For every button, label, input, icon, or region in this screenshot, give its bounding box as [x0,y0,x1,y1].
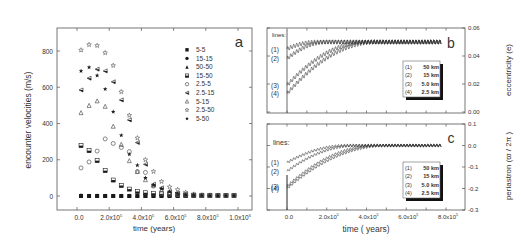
tick-label: 200 [42,156,53,163]
tick-label: 2.0x105 [100,213,122,221]
tick-label: 0.06 [468,25,480,31]
legend-item: (3)5.0 km [405,182,439,188]
legend-item: 50-50 [185,63,213,70]
series-15-50 [79,144,236,198]
figure: 0200400600800 0.02.0x1054.0x1056.0x1058.… [0,0,521,248]
panel-a-scatter-plot: 0200400600800 0.02.0x1054.0x1056.0x1058.… [23,28,252,233]
legend-index: (3) [405,182,412,188]
panel-b-lines-annotation: lines: [272,32,286,38]
legend-label: 50 km [423,64,439,70]
legend-label: 15 km [423,173,439,179]
legend-item: 15-50 [185,72,213,79]
panel-b-label: b [447,35,455,51]
line-label: (2) [271,55,279,63]
tick-label: 0.1 [468,121,477,127]
line-label: (1) [271,159,279,167]
tick-label: 0 [49,193,53,200]
legend-index: (2) [405,72,412,78]
panel-c-label: c [448,130,455,146]
tick-label: 6.0x105 [165,213,187,221]
series-2.5-50 [79,42,237,197]
legend-label: 2.5 km [422,89,439,95]
legend-item: 5-15 [185,98,209,105]
series-2.5-15 [79,67,236,197]
legend-item: (4)2.5 km [405,190,439,196]
line-label: (4) [271,90,279,98]
tick-label: -0.3 [468,207,479,213]
line-label: (4) [271,185,279,193]
tick-label: 8.0x105 [197,213,219,221]
legend-label: 2.5 km [422,190,439,196]
panel-a-data-points [79,42,237,198]
panel-c-y-axis-title: periastron (ϖ / 2π ) [504,132,513,201]
series-2.5-5 [79,137,236,198]
panel-a-legend: 5-515-1550-5015-502.5-52.5-155-152.5-505… [185,46,215,122]
tick-label: 0.00 [468,109,480,115]
legend-label: 5.0 km [422,81,439,87]
legend-label: 5-50 [196,115,209,122]
legend-item: (3)5.0 km [405,81,439,87]
legend-label: 5-15 [196,98,209,105]
panel-a-y-axis-title: encounter velocities (m/s) [23,71,33,168]
panel-c-lines-annotation: lines: [273,139,289,146]
legend-index: (2) [405,173,412,179]
tick-label: 0.02 [468,81,480,87]
tick-label: 800 [42,48,53,55]
legend-label: 2.5-15 [196,89,215,96]
legend-label: 5.0 km [422,182,439,188]
legend-index: (1) [405,64,412,70]
panel-b-y-axis-title: eccentricity (e) [504,44,513,96]
line-label: (1) [271,46,279,54]
series-5-50 [79,65,237,197]
legend-item: 2.5-5 [185,80,211,87]
panel-c-x-axis-title: time ( years) [342,224,389,234]
legend-item: 15-15 [185,55,213,62]
legend-index: (4) [405,190,412,196]
panel-b-line-plot: 0.000.020.040.06 (1)(2)(3)(4) lines: b (… [267,25,513,115]
panel-c-legend: (1)50 km(2)15 km(3)5.0 km(4)2.5 km [403,162,443,201]
tick-label: -0.2 [468,186,479,192]
tick-label: 600 [42,84,53,91]
legend-index: (4) [405,89,412,95]
tick-label: 0.0 [74,214,83,221]
line-label: (3) [271,82,279,90]
legend-label: 15 km [423,72,439,78]
panel-a-label: a [235,33,244,50]
panel-c-line-labels: (1)(2)(3)(4) [271,159,279,193]
legend-label: 15-50 [196,72,213,79]
legend-item: (4)2.5 km [405,89,439,95]
tick-label: -0.1 [468,164,479,170]
tick-label: 2.0x105 [319,213,339,220]
legend-item: 5-50 [185,115,209,122]
tick-label: 6.0x105 [398,213,418,220]
legend-label: 50 km [423,165,439,171]
legend-item: 5-5 [185,46,205,53]
legend-label: 50-50 [196,63,213,70]
panel-a-x-axis-title: time (years) [133,224,176,233]
series-50-50 [79,193,236,197]
panel-c-line-plot: -0.3-0.2-0.10.00.1 0.02.0x1054.0x1056.0x… [267,121,513,234]
legend-label: 2.5-5 [196,80,211,87]
series-5-15 [79,99,236,198]
panel-a-y-ticks: 0200400600800 [42,48,252,200]
legend-label: 2.5-50 [196,106,215,113]
legend-index: (1) [405,165,412,171]
legend-label: 15-15 [196,55,213,62]
tick-label: 0.0 [285,214,294,220]
legend-index: (3) [405,81,412,87]
tick-label: 4.0x105 [133,213,155,221]
panel-b-legend: (1)50 km(2)15 km(3)5.0 km(4)2.5 km [403,61,443,100]
legend-item: 2.5-50 [185,106,215,113]
legend-item: 2.5-15 [185,89,215,96]
tick-label: 4.0x105 [358,213,378,220]
tick-label: 0.0 [468,143,477,149]
tick-label: 8.0x105 [438,213,458,220]
tick-label: 0.04 [468,53,480,59]
tick-label: 400 [42,120,53,127]
tick-label: 1.0x106 [229,213,251,221]
panel-b-line-labels: (1)(2)(3)(4) [271,46,279,99]
legend-label: 5-5 [196,46,206,53]
line-label: (2) [271,168,279,176]
